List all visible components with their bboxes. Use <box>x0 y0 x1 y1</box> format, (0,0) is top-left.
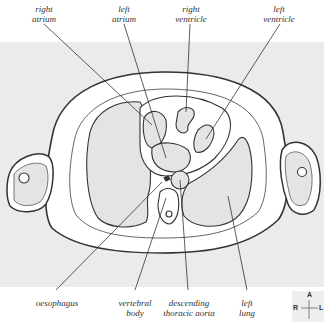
label-right-atrium: rightatrium <box>22 4 66 24</box>
label-right-ventricle: rightventricle <box>168 4 214 24</box>
label-descending-thoracic-aorta: descendingthoracic aorta <box>160 298 218 318</box>
compass-left: L <box>319 304 323 311</box>
label-left-ventricle: leftventricle <box>256 4 302 24</box>
orientation-compass: A R L <box>292 291 324 322</box>
vertebra <box>158 189 179 224</box>
label-vertebral-body: vertebralbody <box>110 298 160 318</box>
label-oesophagus: oesophagus <box>22 298 92 308</box>
thorax-cross-section <box>0 0 324 322</box>
label-left-atrium: leftatrium <box>104 4 144 24</box>
label-left-lung: leftlung <box>232 298 262 318</box>
compass-right: R <box>293 304 298 311</box>
compass-anterior: A <box>307 291 312 298</box>
